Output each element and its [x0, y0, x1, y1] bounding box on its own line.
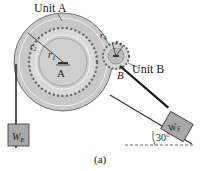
unit-b-label: Unit B: [132, 62, 164, 76]
unit-a: [14, 13, 112, 111]
r3-label: r3: [115, 37, 122, 48]
r4-label: r4: [100, 30, 107, 41]
figure-caption: (a): [94, 153, 107, 166]
center-a-label: A: [57, 67, 65, 79]
unit-a-label: Unit A: [34, 1, 67, 15]
angle-arc: [153, 131, 155, 145]
center-b-label: B: [117, 69, 124, 81]
incline-angle-label: 30°: [156, 132, 170, 143]
pulley-gear-diagram: Unit A r1 r2 A r4 r3 B Unit B WE WF 30° …: [0, 0, 206, 171]
